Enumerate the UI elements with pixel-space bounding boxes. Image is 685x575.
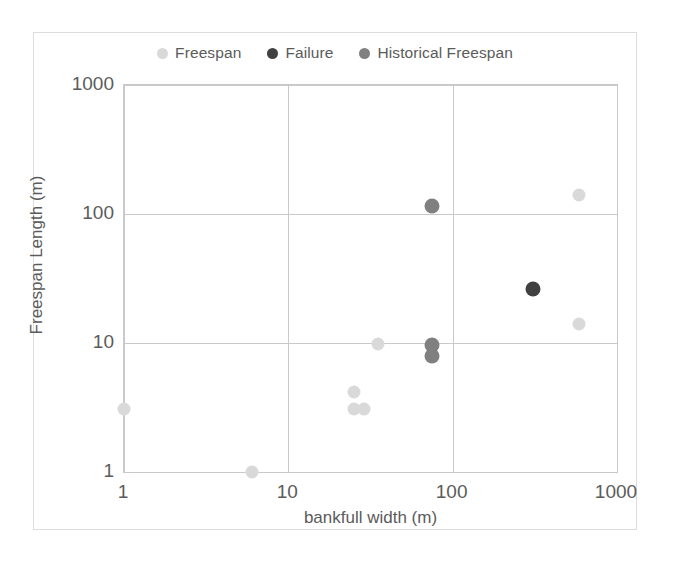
y-axis-tick: 1000 — [72, 73, 114, 95]
y-axis-tick: 100 — [82, 202, 114, 224]
legend-item-label: Failure — [285, 44, 333, 62]
x-axis-tick: 100 — [436, 481, 468, 503]
gridline-horizontal — [124, 214, 617, 215]
data-point — [573, 318, 586, 331]
plot-area — [123, 84, 618, 473]
legend-item: Freespan — [157, 44, 241, 62]
x-axis-tick-labels: 1101001000 — [123, 481, 618, 507]
y-axis-tick: 1 — [103, 460, 114, 482]
legend-item: Historical Freespan — [359, 44, 512, 62]
gridline-vertical — [617, 85, 618, 472]
data-point — [245, 466, 258, 479]
data-point — [358, 402, 371, 415]
data-point — [425, 199, 440, 214]
gridline-horizontal — [124, 472, 617, 473]
gridline-vertical — [288, 85, 289, 472]
legend-marker-icon — [359, 48, 370, 59]
legend-item-label: Freespan — [175, 44, 241, 62]
data-point — [526, 282, 541, 297]
legend-item-label: Historical Freespan — [377, 44, 512, 62]
data-point — [347, 385, 360, 398]
gridline-vertical — [453, 85, 454, 472]
x-axis-title: bankfull width (m) — [123, 508, 618, 528]
x-axis-tick: 1000 — [595, 481, 637, 503]
y-axis-tick-labels: 1000100101 — [50, 84, 114, 473]
data-point — [118, 402, 131, 415]
legend-marker-icon — [157, 48, 168, 59]
x-axis-tick: 10 — [277, 481, 298, 503]
data-point — [573, 189, 586, 202]
y-axis-tick: 10 — [93, 331, 114, 353]
chart-legend: FreespanFailureHistorical Freespan — [33, 42, 637, 64]
legend-marker-icon — [267, 48, 278, 59]
y-axis-title: Freespan Length (m) — [27, 145, 47, 365]
data-point — [371, 338, 384, 351]
legend-item: Failure — [267, 44, 333, 62]
gridline-horizontal — [124, 85, 617, 86]
data-point — [425, 349, 440, 364]
x-axis-tick: 1 — [118, 481, 129, 503]
